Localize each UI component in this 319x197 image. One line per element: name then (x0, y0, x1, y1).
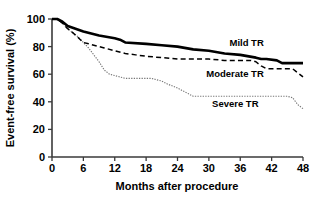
y-axis-title: Event-free survival (%) (4, 28, 16, 147)
x-tick-label: 30 (203, 162, 215, 174)
x-tick-label: 48 (297, 162, 309, 174)
x-tick-label: 24 (171, 162, 184, 174)
y-tick-label: 20 (33, 123, 45, 135)
survival-chart-figure: 020406080100 0612182430364248 Mild TRMod… (0, 0, 319, 197)
chart-canvas: 020406080100 0612182430364248 Mild TRMod… (0, 0, 319, 197)
x-tick-label: 18 (140, 162, 152, 174)
series-label-severe-tr: Severe TR (212, 98, 259, 109)
series-label-moderate-tr: Moderate TR (206, 68, 264, 79)
y-tick-label: 80 (33, 41, 45, 53)
y-tick-label: 0 (39, 151, 45, 163)
y-tick-label: 40 (33, 96, 45, 108)
x-axis-title: Months after procedure (116, 180, 239, 192)
x-tick-label: 12 (109, 162, 121, 174)
x-tick-label: 36 (234, 162, 246, 174)
y-tick-label: 100 (27, 13, 45, 25)
series-label-mild-tr: Mild TR (229, 37, 263, 48)
x-tick-label: 0 (49, 162, 55, 174)
y-tick-label: 60 (33, 68, 45, 80)
x-tick-label: 6 (80, 162, 86, 174)
x-tick-label: 42 (266, 162, 278, 174)
